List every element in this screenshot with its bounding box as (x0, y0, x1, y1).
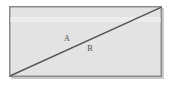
region-label-a: A (63, 35, 71, 43)
rectangle-diagonal-figure (0, 0, 171, 87)
figure-canvas: A B (0, 0, 171, 87)
region-label-b: B (86, 45, 94, 53)
